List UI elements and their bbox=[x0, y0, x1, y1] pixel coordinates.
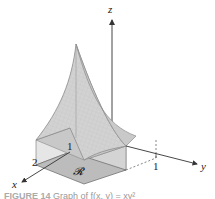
x-axis-label: x bbox=[11, 178, 17, 190]
z-tick-label: 1 bbox=[67, 140, 73, 152]
y-axis bbox=[126, 146, 197, 164]
caption-prefix: FIGURE 14 bbox=[4, 191, 51, 199]
y-tick-label: 1 bbox=[153, 160, 159, 172]
caption-text: Graph of f(x, y) = xy² bbox=[53, 191, 135, 199]
x-tick-label: 2 bbox=[32, 156, 38, 168]
surface-plot-figure: z y x 1 2 1 𝓡 bbox=[0, 0, 215, 199]
z-axis-label: z bbox=[107, 3, 113, 15]
y-axis-label: y bbox=[200, 160, 206, 172]
figure-caption: FIGURE 14 Graph of f(x, y) = xy² bbox=[4, 190, 214, 199]
projection-lines bbox=[126, 140, 156, 170]
